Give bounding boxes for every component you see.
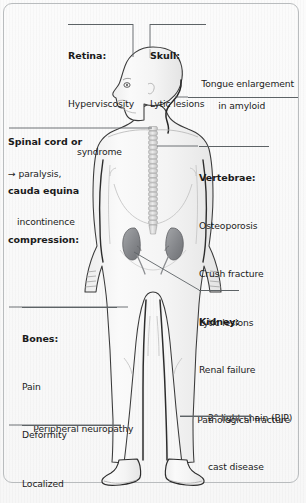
label-bones-line-2: Localized	[22, 479, 109, 490]
label-spinal-line-1: incontinence	[8, 217, 75, 228]
myeloma-clinical-features-diagram: Retina: Hyperviscosity syndrome Skull: L…	[0, 0, 306, 503]
label-pathological-fracture: Pathological fracture	[186, 404, 290, 437]
label-skull-heading: Skull:	[150, 50, 204, 61]
label-skull-rule	[150, 24, 206, 25]
label-pathological-fracture-rule	[180, 416, 252, 417]
label-retina-heading: Retina:	[68, 50, 134, 61]
label-vertebrae-rule	[199, 146, 269, 147]
label-vertebrae-line-0: Osteoporosis	[199, 221, 264, 232]
label-kidney-line-0: Renal failure	[199, 365, 292, 376]
label-tongue-enlargement: Tongue enlargement in amyloid	[190, 68, 294, 122]
left-kidney	[123, 228, 141, 260]
label-bones-heading: Bones:	[22, 333, 109, 344]
label-peripheral-neuropathy: Peripheral neuropathy	[22, 413, 133, 446]
label-tongue-line-1: in amyloid	[201, 101, 265, 112]
label-peripheral-neuropathy-rule	[22, 425, 121, 426]
label-tongue-line-0: Tongue enlargement	[201, 78, 294, 89]
label-kidney-rule	[199, 290, 239, 291]
label-bones: Bones: Pain Deformity Localized skeletal…	[22, 295, 109, 503]
label-spinal-cord-detail: → paralysis, incontinence	[8, 131, 75, 266]
label-bones-line-0: Pain	[22, 382, 109, 393]
label-tongue-rule	[188, 97, 298, 98]
leg-contours	[143, 300, 167, 460]
label-bones-rule	[22, 307, 117, 308]
label-retina-rule	[68, 24, 133, 25]
label-kidney: Kidney: Renal failure 2° light chain (BJ…	[199, 278, 292, 503]
label-vertebrae-heading: Vertebrae:	[199, 172, 264, 183]
label-kidney-line-2: cast disease	[199, 462, 292, 473]
label-kidney-heading: Kidney:	[199, 316, 292, 327]
label-spinal-line-0: → paralysis,	[8, 169, 75, 180]
right-kidney	[165, 228, 183, 260]
